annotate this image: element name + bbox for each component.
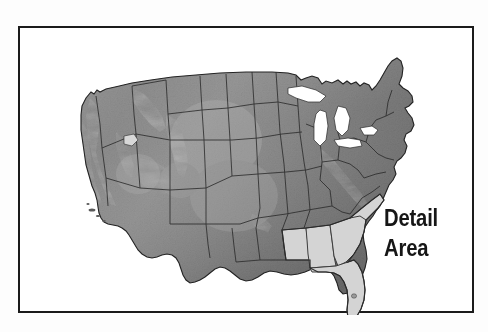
lake-okeechobee <box>351 294 356 298</box>
map-frame: Detail Area <box>18 26 474 313</box>
united-states-map[interactable] <box>20 28 476 315</box>
detail-area-label: Detail Area <box>384 203 460 263</box>
landmass-group <box>20 28 476 315</box>
figure-root: Detail Area <box>0 0 488 332</box>
map-stage <box>20 28 476 315</box>
state-mississippi[interactable] <box>282 228 310 260</box>
state-florida[interactable] <box>310 260 365 315</box>
detail-area-label-line1: Detail <box>384 203 460 233</box>
detail-area-label-line2: Area <box>384 233 460 263</box>
